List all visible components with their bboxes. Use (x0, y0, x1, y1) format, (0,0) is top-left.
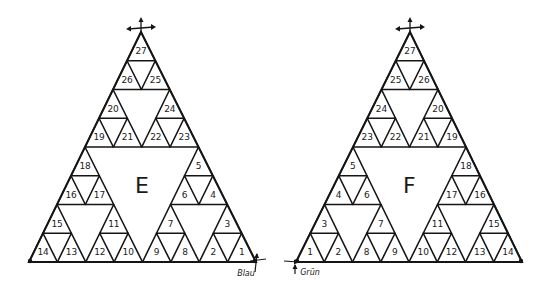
cell-number: 2 (211, 247, 217, 257)
cell-number: 7 (168, 219, 174, 229)
region-label: E (135, 173, 149, 198)
start-note: Blau (237, 269, 255, 278)
arrows-icon (395, 17, 425, 32)
cell-number: 4 (210, 190, 216, 200)
cell-number: 21 (418, 132, 429, 142)
cell-number: 19 (93, 132, 105, 142)
start-note: Grün (300, 268, 320, 277)
cell-number: 18 (460, 161, 472, 171)
sierpinski-diagram: 2726252024192122231851617641511731413121… (0, 0, 548, 283)
cell-number: 24 (376, 104, 388, 114)
cell-number: 23 (179, 132, 190, 142)
cell-number: 13 (474, 247, 485, 257)
cell-number: 24 (164, 104, 176, 114)
cell-number: 1 (307, 247, 313, 257)
corner-dot (28, 259, 32, 263)
cell-number: 26 (121, 75, 133, 85)
cell-number: 8 (182, 247, 188, 257)
cell-number: 10 (417, 247, 429, 257)
cell-number: 4 (336, 190, 342, 200)
cell-number: 14 (37, 247, 49, 257)
cell-number: 9 (154, 247, 160, 257)
cell-number: 14 (502, 247, 514, 257)
cell-number: 2 (336, 247, 342, 257)
cell-number: 8 (364, 247, 370, 257)
cell-number: 3 (322, 219, 328, 229)
cell-number: 5 (196, 161, 202, 171)
cell-number: 11 (108, 219, 119, 229)
cell-number: 5 (350, 161, 356, 171)
triangle-f: 2725262420232221195184617163711151289101… (284, 17, 523, 277)
cell-number: 10 (123, 247, 135, 257)
cell-number: 17 (94, 190, 105, 200)
cell-number: 13 (66, 247, 77, 257)
cell-number: 7 (378, 219, 384, 229)
cell-number: 16 (65, 190, 77, 200)
cell-number: 12 (446, 247, 457, 257)
cell-number: 20 (107, 104, 119, 114)
cell-number: 3 (225, 219, 231, 229)
cell-number: 21 (122, 132, 133, 142)
region-label: F (403, 173, 416, 198)
cell-number: 6 (364, 190, 370, 200)
cell-number: 17 (446, 190, 457, 200)
cell-number: 22 (150, 132, 161, 142)
cell-number: 15 (488, 219, 499, 229)
cell-number: 16 (474, 190, 486, 200)
cell-number: 19 (446, 132, 458, 142)
cell-number: 12 (94, 247, 105, 257)
cell-number: 9 (392, 247, 398, 257)
cell-number: 25 (150, 75, 161, 85)
triangle-e: 2726252024192122231851617641511731413121… (28, 17, 266, 278)
corner-dot (519, 259, 523, 263)
cell-number: 25 (390, 75, 401, 85)
cell-number: 27 (404, 46, 415, 56)
cell-number: 27 (135, 46, 146, 56)
cell-number: 15 (51, 219, 62, 229)
cell-number: 1 (239, 247, 245, 257)
cell-number: 22 (390, 132, 401, 142)
cell-number: 18 (79, 161, 91, 171)
cell-number: 11 (432, 219, 443, 229)
cell-number: 23 (361, 132, 372, 142)
arrows-icon (126, 17, 156, 32)
cell-number: 6 (182, 190, 188, 200)
cell-number: 20 (432, 104, 444, 114)
cell-number: 26 (418, 75, 430, 85)
